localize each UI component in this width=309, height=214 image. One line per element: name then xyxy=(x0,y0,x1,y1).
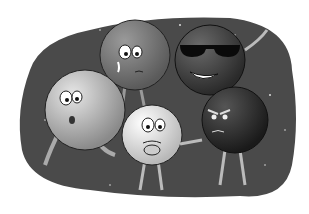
illustration xyxy=(0,0,309,214)
cartoon-scene xyxy=(0,0,309,214)
